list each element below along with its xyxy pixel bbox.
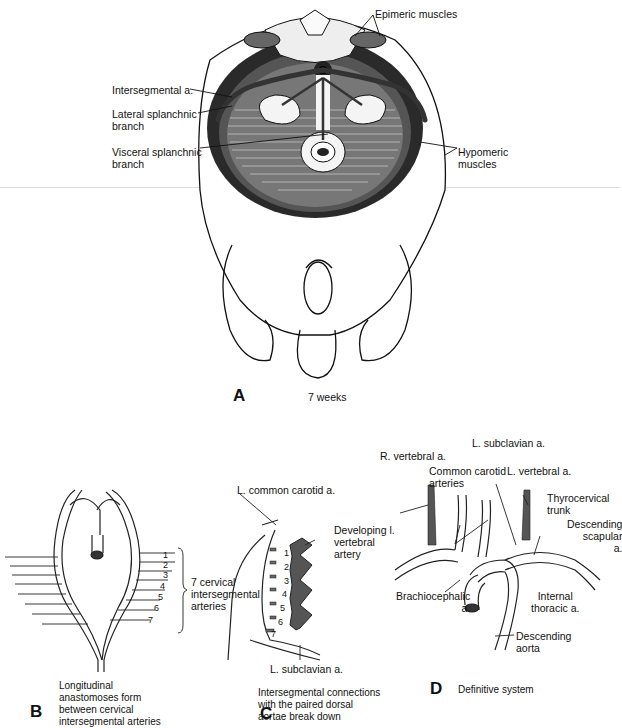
label-internal-thoracic: Internal thoracic a. [531,590,579,614]
label-common-carotid-arteries: Common carotid arteries [429,465,506,489]
label-thyrocervical-trunk: Thyrocervical trunk [547,492,609,516]
label-descending-aorta: Descending aorta [516,630,571,654]
label-r-vertebral: R. vertebral a. [380,450,446,462]
label-l-subclavian-d: L. subclavian a. [472,437,545,449]
panel-caption-d: Definitive system [458,684,534,696]
label-descending-scapular: Descending scapular a. [567,518,622,554]
label-l-vertebral: L. vertebral a. [507,465,571,477]
panel-letter-d: D [430,679,442,699]
label-brachiocephalic: Brachiocephalic a. [396,590,470,614]
